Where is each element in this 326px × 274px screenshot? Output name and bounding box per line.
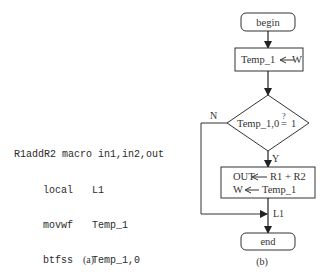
caption-b: (b) [256, 256, 268, 268]
join-label: L1 [273, 208, 284, 219]
process-line2-left: W [233, 184, 243, 195]
decision-equals: = [281, 118, 287, 129]
end-label: end [260, 236, 276, 247]
decision-text: Temp_1,0 [237, 118, 279, 129]
process-line1-right: R1 + R2 [270, 171, 306, 182]
assign-temp-left: Temp_1 [241, 54, 275, 65]
begin-label: begin [256, 17, 280, 28]
no-branch-label: N [210, 110, 217, 121]
decision-value: 1 [291, 118, 296, 129]
process-line1-left: OUT [233, 171, 255, 182]
assign-temp-box: Temp_1 W [235, 48, 303, 71]
process-line2-right: Temp_1 [262, 184, 296, 195]
assign-temp-right: W [292, 54, 302, 65]
flowchart: begin Temp_1 W Temp_1,0 ? = 1 N Y OUT R1… [0, 0, 326, 274]
end-terminal: end [241, 233, 295, 250]
decision-diamond: Temp_1,0 ? = 1 [227, 95, 309, 151]
process-box: OUT R1 + R2 W Temp_1 [221, 167, 315, 198]
yes-branch-label: Y [272, 153, 279, 164]
begin-terminal: begin [241, 13, 295, 31]
